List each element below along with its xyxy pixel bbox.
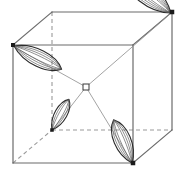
center-marker-group: [83, 84, 89, 90]
lobe-front-bottom-right-outline: [106, 116, 140, 166]
lobes-group: [10, 0, 177, 166]
orbital-unit-cell-figure: [0, 0, 185, 180]
figure-canvas: [0, 0, 185, 180]
cube-solid-edge-6: [13, 12, 52, 45]
center-site-marker: [83, 84, 89, 90]
hidden-edges-group: [13, 12, 172, 163]
vertex-dot-front-top-left: [11, 43, 15, 47]
lobe-back-top-right-inner-3: [120, 0, 171, 18]
lobe-front-bottom-right-inner-neg-3: [114, 118, 138, 163]
solid-edges-group: [13, 12, 172, 163]
vertex-dot-front-bottom-right: [131, 161, 136, 166]
vertex-dot-back-top-right: [170, 10, 175, 15]
bonds-group: [16, 15, 169, 161]
lobe-back-bottom-left: [47, 96, 75, 133]
vertex-dot-back-bottom-left: [50, 128, 54, 132]
cube-hidden-edge-2: [13, 130, 52, 163]
cube-solid-edge-8: [133, 130, 172, 163]
vertex-dots-group: [11, 10, 174, 166]
lobe-front-bottom-right: [106, 116, 140, 166]
bond-to-back-top-right: [86, 15, 169, 87]
lobe-back-bottom-left-outline: [47, 96, 75, 133]
lobe-back-top-right: [118, 0, 178, 21]
lobe-back-bottom-left-inner-neg-1: [52, 100, 71, 131]
